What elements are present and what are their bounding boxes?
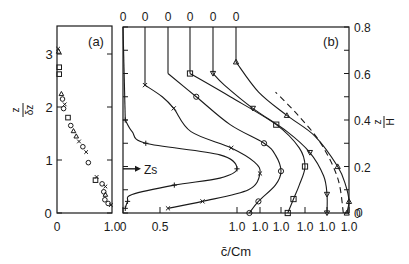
marker-x <box>229 146 233 150</box>
profile-curve <box>125 120 237 208</box>
right-y-tick-label: 0.8 <box>354 21 371 35</box>
marker-x <box>84 150 88 154</box>
profile-curve <box>213 74 327 214</box>
marker-circle <box>68 123 73 128</box>
marker-x <box>77 140 81 144</box>
x-tick-label: 0 <box>54 220 61 234</box>
right-y-tick-label: 0.6 <box>354 68 371 82</box>
panel-a-ylabel: zδz <box>10 103 35 117</box>
panel-a-title: (a) <box>88 34 104 49</box>
marker-plus <box>143 141 148 146</box>
marker-x <box>63 103 67 107</box>
marker-triangle <box>71 129 76 133</box>
bottom-tick-label: 1.0 <box>341 220 358 234</box>
marker-x <box>104 185 108 189</box>
bottom-tick-label: 1.0 <box>297 220 314 234</box>
panel-b-title: (b) <box>323 34 339 49</box>
panel-b-xlabel: c̄/Cm <box>221 244 251 259</box>
marker-plus <box>234 166 239 171</box>
bottom-tick-label: 1.0 <box>229 220 246 234</box>
marker-square <box>66 115 71 120</box>
right-y-tick-label: 0.4 <box>354 114 371 128</box>
y-tick-label: 2 <box>45 100 52 115</box>
bottom-tick-label: 0 <box>120 220 127 234</box>
ylabel-numerator: z <box>10 108 21 113</box>
bottom-tick-label: 1.0 <box>252 220 269 234</box>
x-tick-label: 1.0 <box>104 220 121 234</box>
profile-curve <box>168 74 281 214</box>
bottom-tick-label: 1.0 <box>273 220 290 234</box>
top-tick-label: 0 <box>187 10 194 24</box>
marker-triangle <box>74 134 79 138</box>
marker-plus <box>125 199 130 204</box>
marker-x <box>172 106 176 110</box>
top-tick-label: 0 <box>120 10 127 24</box>
profile-curve <box>190 74 305 214</box>
ylabel-denominator: δz <box>24 105 35 116</box>
top-tick-label: 0 <box>210 10 217 24</box>
marker-circle <box>60 97 65 102</box>
bottom-tick-label: 0.5 <box>152 220 169 234</box>
bottom-tick-label: 1.0 <box>319 220 336 234</box>
top-tick-label: 0 <box>233 10 240 24</box>
panel-b: 00.20.40.60.8(b)zH00.51.01.01.01.01.01.0… <box>120 10 396 259</box>
marker-circle <box>86 160 91 165</box>
panel-a: 123001.0(a)zδz <box>10 26 121 234</box>
right-y-zero: 0 <box>356 206 363 220</box>
marker-circle <box>81 144 86 149</box>
zs-arrow-head <box>135 166 141 172</box>
zs-annotation-label: Zs <box>144 163 157 177</box>
top-tick-label: 0 <box>165 10 172 24</box>
ylabel-numerator: z <box>372 120 383 125</box>
y-tick-label: 3 <box>45 47 52 62</box>
y-tick-label: 1 <box>45 153 52 168</box>
marker-plus <box>172 183 177 188</box>
right-y-tick-label: 0.2 <box>354 161 371 175</box>
top-tick-label: 0 <box>142 10 149 24</box>
figure: 123001.0(a)zδz 00.20.40.60.8(b)zH00.51.0… <box>0 0 409 264</box>
marker-triangle <box>103 192 108 196</box>
marker-circle <box>61 106 66 111</box>
y-tick-label: 0 <box>44 206 51 221</box>
marker-triangle <box>59 91 64 95</box>
panel-b-ylabel: zH <box>372 116 396 128</box>
ylabel-denominator: H <box>385 118 396 125</box>
